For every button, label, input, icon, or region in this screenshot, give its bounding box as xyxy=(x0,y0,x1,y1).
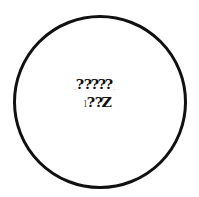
figure-canvas: . ? ? ? ? ? . l ? ? Z xyxy=(0,0,199,197)
glyph-row-top: . ? ? ? ? ? . xyxy=(73,78,115,91)
glyph: ? xyxy=(105,78,113,91)
trailing-mark: . xyxy=(113,85,114,91)
glyph: Z xyxy=(101,96,111,109)
glyph-row-bottom: l ? ? Z xyxy=(83,96,111,109)
